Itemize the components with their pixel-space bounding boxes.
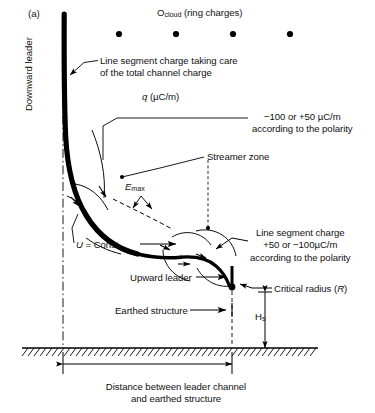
downward-leader-axis-label: Downward leader (23, 28, 35, 120)
line-segment-right-line3: according to the polarity (250, 252, 351, 263)
ocloud-ring-charges-label: Ocloud (ring charges) (157, 7, 242, 19)
earth-ground (22, 348, 318, 356)
critical-radius-prefix: Critical radius ( (274, 283, 337, 294)
line-segment-right-line1: Line segment charge (256, 227, 345, 238)
emax-label: Emax (125, 181, 145, 193)
polarity-top-label: −100 or +50 µC/maccording to the polarit… (252, 111, 353, 136)
line-segment-charge-right-label: Line segment charge+50 or −100µC/maccord… (250, 227, 351, 264)
hs-subscript: s (262, 314, 266, 323)
streamer-zone-label: Streamer zone (207, 151, 269, 163)
ocloud-subscript: cloud (164, 10, 181, 19)
earthed-structure-leader (190, 303, 232, 317)
ring-charge-dots (116, 31, 293, 37)
critical-radius-leader (240, 284, 272, 288)
emax-dashed-line (113, 196, 172, 229)
structure-height-label: Hs (255, 311, 265, 323)
critical-radius-label: Critical radius (R) (274, 283, 347, 295)
ocloud-suffix: (ring charges) (181, 7, 242, 18)
line-segment-charge-top-label: Line segment charge taking careof the to… (100, 55, 238, 80)
critical-radius-suffix: ) (344, 283, 347, 294)
line-segment-top-leader (70, 61, 98, 76)
u-symbol: U (76, 239, 83, 250)
q-units: (µC/m) (147, 91, 179, 102)
distance-caption-line2: and earthed structure (131, 393, 221, 404)
polarity-top-line1: −100 or +50 µC/m (264, 111, 341, 122)
earthed-structure-label: Earthed structure (115, 305, 188, 317)
line-segment-top-line2: of the total channel charge (100, 67, 212, 78)
line-segment-right-line2: +50 or −100µC/m (263, 239, 337, 250)
critical-radius-symbol: R (337, 283, 344, 294)
figure-panel: (a) Downward leader Ocloud (ring charges… (0, 0, 375, 413)
emax-subscript: max (131, 184, 144, 193)
upward-leader-label: Upward leader (130, 272, 192, 284)
channel-charge-q-label: q (µC/m) (142, 91, 179, 103)
distance-caption: Distance between leader channeland earth… (62, 381, 290, 406)
u-const-label: U = Const (76, 239, 119, 251)
panel-letter: (a) (28, 8, 40, 20)
line-segment-top-line1: Line segment charge taking care (100, 55, 238, 66)
distance-caption-line1: Distance between leader channel (106, 381, 246, 392)
u-const-rest: = Const (83, 239, 119, 250)
hs-symbol: H (255, 311, 262, 322)
polarity-top-line2: according to the polarity (252, 123, 353, 134)
streamer-zone-leaders (120, 157, 210, 230)
line-segment-right-leader (216, 238, 248, 249)
